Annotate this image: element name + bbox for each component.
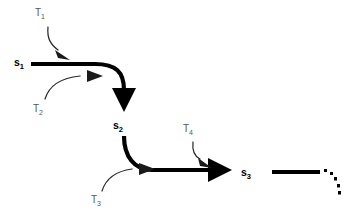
transition-arrow-T1-curve — [48, 27, 58, 50]
state-label-s2: s2 — [113, 119, 123, 134]
continuation-dot-5 — [338, 191, 341, 195]
state-label-s1: s1 — [14, 56, 24, 71]
transition-label-T3: T3 — [91, 194, 101, 207]
arrowhead-s2-s3 — [208, 158, 232, 182]
flow-s1-to-s2 — [31, 64, 136, 112]
continuation-dot-2 — [330, 172, 333, 175]
transition-label-T2: T2 — [33, 103, 43, 116]
flow-s2-to-s3 — [124, 136, 232, 182]
continuation-dot-4 — [337, 184, 340, 188]
transition-label-T4: T4 — [183, 123, 193, 136]
diagram-canvas: s1 s2 s3 T1 T2 T3 T4 — [0, 0, 349, 217]
transition-label-T1: T1 — [35, 7, 45, 20]
transition-arrow-T3-curve — [102, 169, 132, 191]
arrowhead-s1-s2 — [112, 88, 136, 112]
transition-arrow-T1-head — [55, 50, 70, 60]
transition-arrow-T4-curve — [193, 142, 200, 159]
transition-arrow-T1 — [48, 27, 70, 60]
continuation-dot-3 — [334, 177, 337, 181]
transition-arrow-T3 — [102, 163, 155, 191]
transition-arrow-T3-head — [139, 163, 155, 175]
state-label-s3: s3 — [241, 166, 251, 181]
transition-arrow-T2-curve — [45, 76, 80, 99]
flow-path-s1-s2 — [31, 64, 124, 91]
continuation-dot-1 — [324, 169, 327, 172]
state-transition-diagram: s1 s2 s3 T1 T2 T3 T4 — [0, 0, 349, 217]
flow-after-s3 — [272, 169, 341, 195]
transition-arrow-T2 — [45, 70, 103, 99]
continuation-dots — [324, 169, 341, 195]
flow-path-s2-s3 — [124, 136, 210, 170]
transition-arrow-T2-head — [87, 70, 103, 82]
